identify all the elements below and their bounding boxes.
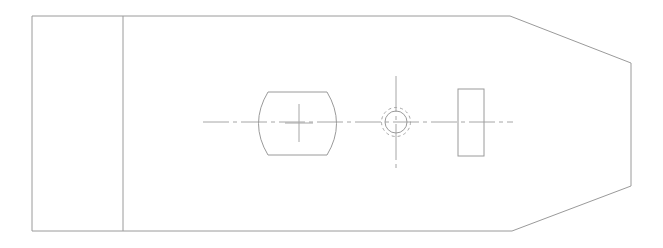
technical-drawing-svg — [0, 0, 663, 248]
drawing-canvas — [0, 0, 663, 248]
